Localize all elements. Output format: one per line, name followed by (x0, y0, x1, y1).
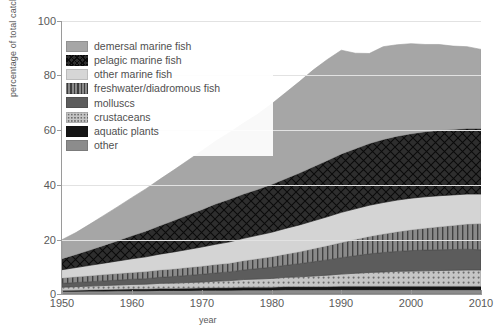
legend-swatch-icon (66, 97, 88, 108)
legend-item-other-marine-fish[interactable]: other marine fish (66, 67, 271, 81)
gridline-40 (62, 185, 481, 186)
y-tick-label: 80 (28, 69, 56, 81)
x-tick-2010: 2010 (469, 297, 493, 309)
x-tickmark (411, 290, 412, 295)
legend-label: aquatic plants (94, 126, 159, 137)
legend-swatch-icon (66, 126, 88, 137)
legend-label: pelagic marine fish (94, 55, 182, 66)
y-tick-label: 100 (28, 15, 56, 27)
legend-swatch-icon (66, 140, 88, 151)
x-tickmark (341, 290, 342, 295)
gridline-20 (62, 240, 481, 241)
legend-swatch-icon (66, 112, 88, 123)
x-tick-1950: 1950 (50, 297, 74, 309)
legend-item-aquatic-plants[interactable]: aquatic plants (66, 124, 271, 138)
x-axis-title: year (199, 315, 217, 325)
y-axis-title: percentage of total catch (8, 0, 18, 97)
x-tick-1990: 1990 (329, 297, 353, 309)
legend-label: molluscs (94, 98, 135, 109)
x-tick-1970: 1970 (190, 297, 214, 309)
legend-swatch-icon (66, 55, 88, 66)
legend-label: other (94, 140, 118, 151)
legend-item-freshwater-diadromous-fish[interactable]: freshwater/diadromous fish (66, 82, 271, 96)
legend-item-pelagic-marine-fish[interactable]: pelagic marine fish (66, 53, 271, 67)
gridline-100 (62, 21, 481, 22)
x-tickmark (62, 290, 63, 295)
x-tickmark (481, 290, 482, 295)
x-tick-1980: 1980 (260, 297, 284, 309)
legend-label: demersal marine fish (94, 41, 191, 52)
legend-swatch-icon (66, 69, 88, 80)
y-tick-label: 60 (28, 124, 56, 136)
legend-item-molluscs[interactable]: molluscs (66, 96, 271, 110)
legend-item-crustaceans[interactable]: crustaceans (66, 110, 271, 124)
x-tickmark (132, 290, 133, 295)
x-tick-1960: 1960 (120, 297, 144, 309)
legend-swatch-icon (66, 41, 88, 52)
y-tick-label: 40 (28, 179, 56, 191)
y-tick-label: 20 (28, 234, 56, 246)
legend-label: crustaceans (94, 112, 151, 123)
legend-item-demersal-marine-fish[interactable]: demersal marine fish (66, 39, 271, 53)
x-tickmark (202, 290, 203, 295)
legend-item-other[interactable]: other (66, 138, 271, 152)
legend-label: freshwater/diadromous fish (94, 83, 220, 94)
legend-swatch-icon (66, 83, 88, 94)
stacked-area-chart: percentage of total catch 100 80 60 40 2… (0, 0, 503, 332)
x-tickmark (272, 290, 273, 295)
x-tick-2000: 2000 (399, 297, 423, 309)
legend-label: other marine fish (94, 69, 172, 80)
legend: demersal marine fish pelagic marine fish… (62, 36, 273, 156)
